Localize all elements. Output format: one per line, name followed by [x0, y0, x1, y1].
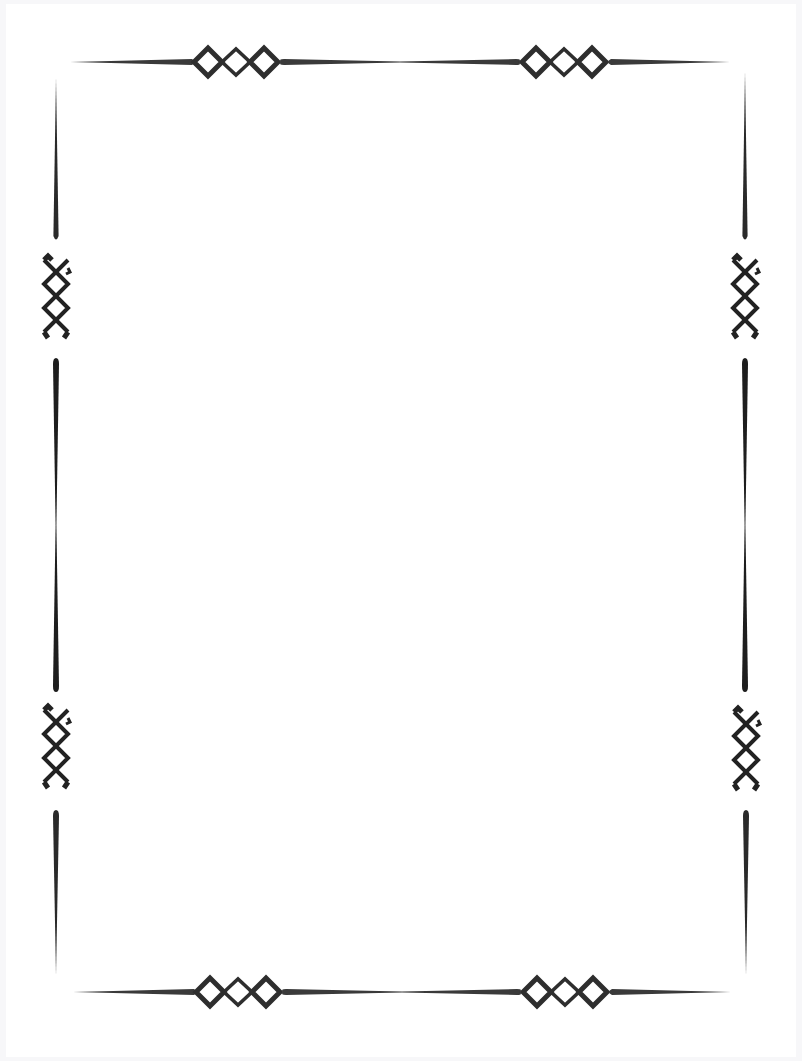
diamond-chain-ornament [522, 48, 606, 76]
left-border [44, 78, 70, 975]
bottom-border [73, 978, 731, 1006]
top-border [70, 48, 730, 76]
decorative-border [0, 0, 802, 1061]
diamond-chain-ornament [194, 48, 278, 76]
diamond-chain-ornament [523, 978, 607, 1006]
knot-ornament [734, 708, 760, 790]
knot-ornament [44, 256, 70, 338]
knot-ornament [44, 706, 70, 788]
right-border [733, 72, 760, 975]
diamond-chain-ornament [196, 978, 280, 1006]
knot-ornament [733, 256, 759, 338]
